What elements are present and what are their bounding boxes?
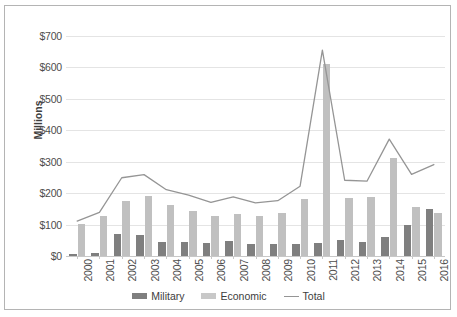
x-axis-tick-mark xyxy=(322,256,323,259)
x-axis-tick-mark xyxy=(345,256,346,259)
x-axis-tick-label: 2013 xyxy=(371,259,383,282)
x-axis-tick-label: 2014 xyxy=(394,259,406,282)
x-axis-tick-label: 2011 xyxy=(327,259,339,281)
y-axis-tick-label: $0 xyxy=(51,250,62,262)
chart-legend: MilitaryEconomicTotal xyxy=(5,290,452,302)
x-axis-tick-label: 2009 xyxy=(282,259,294,282)
x-axis-tick-mark xyxy=(211,256,212,259)
x-axis-tick-label: 2001 xyxy=(104,259,116,282)
x-axis-tick-mark xyxy=(434,256,435,259)
legend-swatch-icon xyxy=(132,293,147,299)
x-axis-tick-label: 2000 xyxy=(82,259,94,282)
x-axis-tick-mark xyxy=(412,256,413,259)
legend-label: Economic xyxy=(220,290,266,302)
y-axis-tick-label: $500 xyxy=(39,93,62,105)
x-axis-tick-mark xyxy=(233,256,234,259)
y-axis-tick-labels: $0$100$200$300$400$500$600$700 xyxy=(19,36,62,256)
x-axis-tick-mark xyxy=(367,256,368,259)
x-axis-tick-label: 2010 xyxy=(305,259,317,282)
x-axis-tick-mark xyxy=(99,256,100,259)
x-axis-tick-mark xyxy=(166,256,167,259)
legend-item[interactable]: Economic xyxy=(201,290,266,302)
x-axis-tick-label: 2007 xyxy=(238,259,250,282)
y-axis-tick-label: $200 xyxy=(39,187,62,199)
y-axis-tick-label: $600 xyxy=(39,61,62,73)
x-axis-tick-mark xyxy=(122,256,123,259)
x-axis-tick-label: 2006 xyxy=(215,259,227,282)
x-axis-tick-label: 2005 xyxy=(193,259,205,282)
x-axis-tick-label: 2016 xyxy=(438,259,450,282)
total-line-series xyxy=(66,36,445,256)
x-axis-tick-label: 2015 xyxy=(416,259,428,282)
x-axis-tick-label: 2004 xyxy=(171,259,183,282)
x-axis-tick-mark xyxy=(144,256,145,259)
x-axis-tick-label: 2012 xyxy=(349,259,361,282)
legend-label: Military xyxy=(151,290,184,302)
y-axis-tick-label: $100 xyxy=(39,219,62,231)
legend-swatch-icon xyxy=(284,296,299,297)
legend-item[interactable]: Military xyxy=(132,290,184,302)
legend-swatch-icon xyxy=(201,293,216,299)
x-axis-tick-mark xyxy=(389,256,390,259)
legend-label: Total xyxy=(303,290,325,302)
x-axis-tick-mark xyxy=(300,256,301,259)
plot-area xyxy=(66,36,445,256)
x-axis-tick-mark xyxy=(256,256,257,259)
x-axis-tick-mark xyxy=(189,256,190,259)
y-axis-tick-label: $300 xyxy=(39,156,62,168)
legend-item[interactable]: Total xyxy=(284,290,325,302)
total-line-path xyxy=(77,50,434,221)
y-axis-tick-label: $400 xyxy=(39,124,62,136)
x-axis-tick-mark xyxy=(278,256,279,259)
x-axis-tick-mark xyxy=(77,256,78,259)
chart-container: Millions $0$100$200$300$400$500$600$700 … xyxy=(4,5,451,310)
y-axis-tick-label: $700 xyxy=(39,30,62,42)
x-axis-tick-label: 2008 xyxy=(260,259,272,282)
x-axis-tick-label: 2003 xyxy=(149,259,161,282)
x-axis-tick-label: 2002 xyxy=(126,259,138,282)
